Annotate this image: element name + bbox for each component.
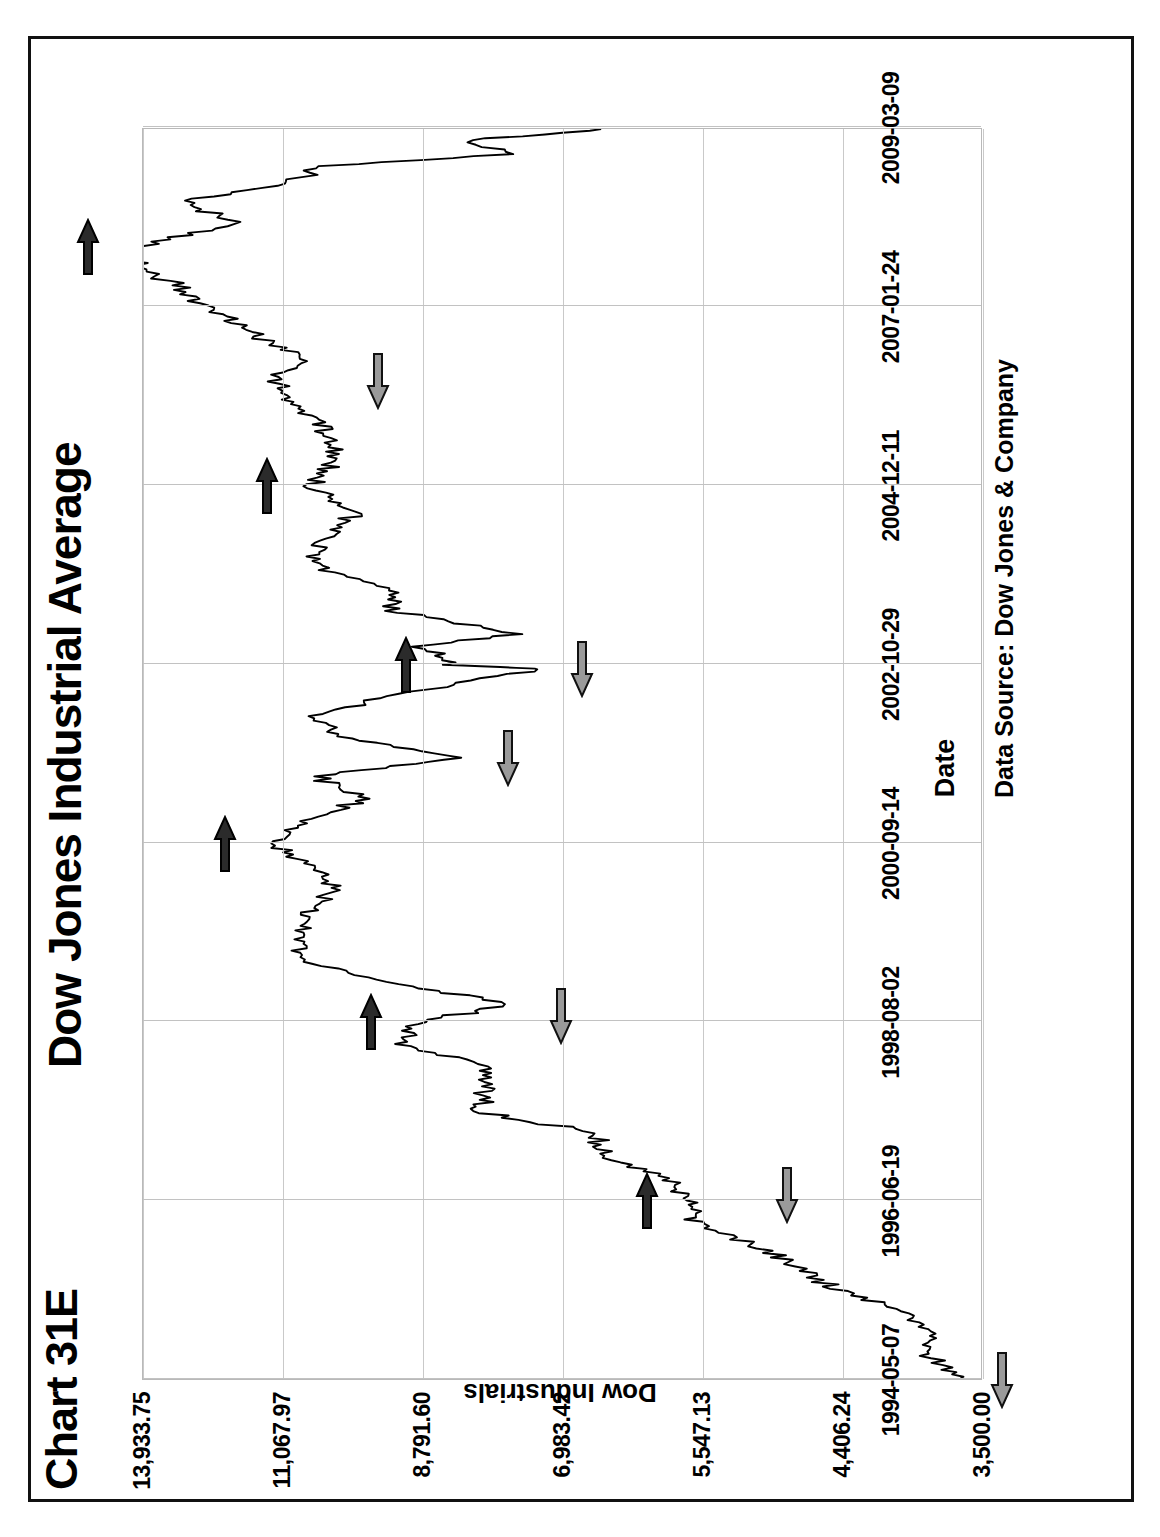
annotation-arrow-trough <box>775 1166 799 1224</box>
x-gridline <box>143 126 981 127</box>
x-axis-tick-label: 2009-03-09 <box>878 72 905 185</box>
y-gridline <box>843 129 844 1379</box>
y-gridline <box>563 129 564 1379</box>
x-axis-title: Date <box>930 38 961 1498</box>
x-axis-tick-label: 2000-09-14 <box>878 787 905 900</box>
y-gridline <box>703 129 704 1379</box>
annotation-arrow-peak <box>635 1172 659 1230</box>
x-axis-tick-label: 1996-06-19 <box>878 1145 905 1258</box>
y-gridline <box>283 129 284 1379</box>
y-gridline <box>423 129 424 1379</box>
x-axis-tick-label: 1998-08-02 <box>878 966 905 1079</box>
y-gridline <box>983 129 984 1379</box>
x-axis-tick-label: 2004-12-11 <box>878 430 905 541</box>
x-gridline <box>143 842 981 843</box>
x-axis-tick-label: 2007-01-24 <box>878 251 905 364</box>
chart-number-label: Chart 31E <box>36 1289 88 1490</box>
annotation-arrow-trough <box>549 987 573 1045</box>
y-axis-tick-label: 8,791.60 <box>409 1392 436 1478</box>
y-axis-tick-label: 13,933.75 <box>129 1392 156 1490</box>
annotation-arrow-peak <box>213 815 237 873</box>
y-gridline <box>143 129 144 1379</box>
page-root: Chart 31E Dow Jones Industrial Average D… <box>0 0 1160 1537</box>
x-axis-tick-label: 1994-05-07 <box>878 1324 905 1437</box>
chart-canvas: Chart 31E Dow Jones Industrial Average D… <box>30 38 1130 1498</box>
annotation-arrow-peak <box>394 636 418 694</box>
annotation-arrow-trough <box>990 1351 1014 1409</box>
annotation-arrow-trough <box>496 729 520 787</box>
y-axis-tick-label: 11,067.97 <box>269 1392 296 1489</box>
plot-area <box>142 128 982 1380</box>
chart-title: Dow Jones Industrial Average <box>38 442 92 1068</box>
y-axis-tick-label: 4,406.24 <box>828 1392 855 1478</box>
x-gridline <box>143 663 981 664</box>
annotation-arrow-peak <box>255 457 279 515</box>
x-gridline <box>143 1199 981 1200</box>
x-axis-tick-label: 2002-10-29 <box>878 608 905 721</box>
rotated-chart-wrapper: Chart 31E Dow Jones Industrial Average D… <box>0 0 1160 1537</box>
annotation-arrow-trough <box>366 352 390 410</box>
annotation-arrow-trough <box>570 640 594 698</box>
data-source-note: Data Source: Dow Jones & Company <box>990 359 1019 798</box>
annotation-arrow-peak <box>359 993 383 1051</box>
y-axis-tick-label: 5,547.13 <box>688 1392 715 1478</box>
x-gridline <box>143 305 981 306</box>
y-axis-tick-label: 6,983.42 <box>548 1392 575 1478</box>
annotation-arrow-peak <box>76 218 100 276</box>
